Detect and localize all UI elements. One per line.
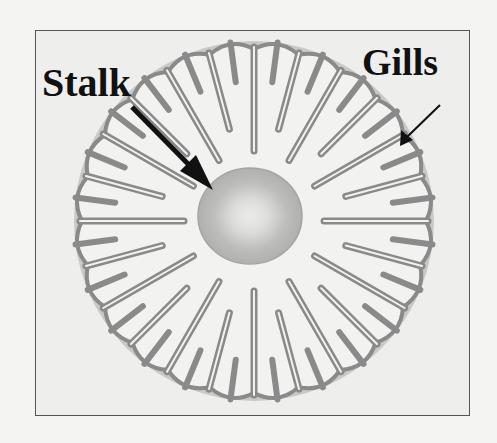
gills-label: Gills [362,43,438,81]
stalk-cross-section [198,168,302,264]
stalk-label: Stalk [42,63,131,103]
